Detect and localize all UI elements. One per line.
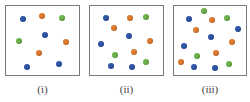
orange-particle <box>63 39 69 45</box>
green-particle <box>201 8 207 14</box>
blue-particle <box>235 26 241 32</box>
orange-particle <box>178 59 184 65</box>
green-particle <box>59 15 65 21</box>
blue-particle <box>24 64 30 70</box>
panel-label: (i) <box>23 83 63 95</box>
green-particle <box>226 61 232 67</box>
blue-particle <box>42 32 48 38</box>
container-box <box>173 5 247 76</box>
panel-label: (iii) <box>190 83 230 95</box>
green-particle <box>224 15 230 21</box>
blue-particle <box>98 41 104 47</box>
blue-particle <box>191 64 197 70</box>
orange-particle <box>209 17 215 23</box>
green-particle <box>16 38 22 44</box>
orange-particle <box>229 39 235 45</box>
blue-particle <box>129 64 135 70</box>
green-particle <box>194 53 200 59</box>
orange-particle <box>147 38 153 44</box>
blue-particle <box>208 34 214 40</box>
green-particle <box>112 52 118 58</box>
orange-particle <box>36 50 42 56</box>
orange-particle <box>213 50 219 56</box>
blue-particle <box>108 63 114 69</box>
orange-particle <box>111 25 117 31</box>
blue-particle <box>56 61 62 67</box>
blue-particle <box>126 33 132 39</box>
blue-particle <box>181 43 187 49</box>
blue-particle <box>103 15 109 21</box>
orange-particle <box>127 15 133 21</box>
green-particle <box>143 59 149 65</box>
blue-particle <box>20 16 26 22</box>
blue-particle <box>212 65 218 71</box>
orange-particle <box>39 13 45 19</box>
orange-particle <box>131 49 137 55</box>
green-particle <box>143 14 149 20</box>
panel-label: (ii) <box>107 83 147 95</box>
blue-particle <box>186 16 192 22</box>
orange-particle <box>193 27 199 33</box>
